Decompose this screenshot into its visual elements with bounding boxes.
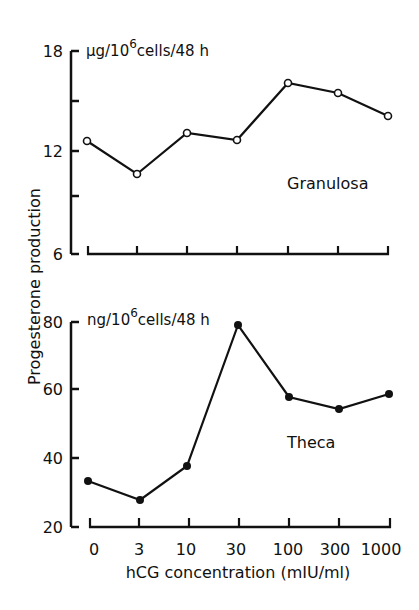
y-tick-label: 6 <box>53 245 63 264</box>
y-axis-title: Progesterone production <box>25 188 44 385</box>
y-tick-label: 18 <box>43 42 63 61</box>
y-tick-label: 12 <box>43 142 63 161</box>
x-tick-label: 300 <box>320 540 351 559</box>
data-line <box>88 325 389 500</box>
figure: 18 12 6 µg/106cells/48 h Granulosa Proge… <box>0 0 419 610</box>
theca-chart: 80 60 40 20 ng/106cells/48 h Theca 0 3 1… <box>43 306 402 582</box>
x-tick-label: 30 <box>226 540 246 559</box>
unit-label: ng/106cells/48 h <box>87 306 210 329</box>
granulosa-chart: 18 12 6 µg/106cells/48 h Granulosa <box>43 37 392 264</box>
series-label: Theca <box>286 433 335 452</box>
y-tick-label: 40 <box>43 449 63 468</box>
x-tick-label: 100 <box>273 540 304 559</box>
x-tick-label: 3 <box>134 540 144 559</box>
x-tick-label: 1000 <box>361 540 402 559</box>
x-tick-label: 10 <box>176 540 196 559</box>
y-tick-label: 80 <box>43 313 63 332</box>
y-tick-label: 20 <box>43 518 63 537</box>
series-label: Granulosa <box>287 174 368 193</box>
data-markers <box>84 321 393 504</box>
unit-label: µg/106cells/48 h <box>86 37 209 60</box>
x-tick-label: 0 <box>89 540 99 559</box>
data-line <box>87 83 388 174</box>
x-axis-title: hCG concentration (mIU/ml) <box>126 563 351 582</box>
data-markers <box>84 80 392 178</box>
y-tick-label: 60 <box>43 380 63 399</box>
